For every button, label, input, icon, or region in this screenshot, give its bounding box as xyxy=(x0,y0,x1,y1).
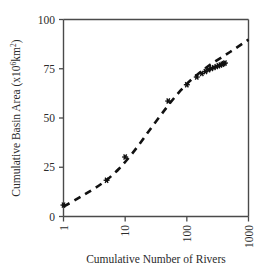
chart-figure: 100 75 50 25 0 1 10 100 1000 Cumulative … xyxy=(0,0,274,276)
x-tick-marks xyxy=(64,217,249,222)
y-tick-label-75: 75 xyxy=(44,63,56,75)
y-axis-title-close: ) xyxy=(10,39,23,43)
y-tick-label-25: 25 xyxy=(44,161,56,173)
y-tick-label-0: 0 xyxy=(49,211,55,223)
x-tick-label-100: 100 xyxy=(181,225,193,243)
x-tick-label-1: 1 xyxy=(58,225,70,231)
x-tick-label-1000: 1000 xyxy=(243,225,255,248)
y-tick-label-100: 100 xyxy=(38,14,56,26)
y-axis-title-main: Cumulative Basin Area (x10 xyxy=(10,65,23,197)
chart-svg: 100 75 50 25 0 1 10 100 1000 Cumulative … xyxy=(0,0,274,276)
y-tick-label-50: 50 xyxy=(44,112,56,124)
y-axis-title: Cumulative Basin Area (x106km2) xyxy=(9,39,23,196)
y-axis-title-tail: km xyxy=(10,47,22,62)
x-tick-label-10: 10 xyxy=(119,225,131,237)
x-axis-title: Cumulative Number of Rivers xyxy=(86,253,226,265)
data-point-markers xyxy=(61,60,228,207)
